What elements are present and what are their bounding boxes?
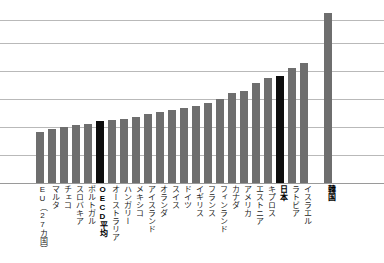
bar xyxy=(288,68,296,183)
bar xyxy=(132,117,140,183)
category-axis-labels: EU（27カ国）マルタチェコスロバキアポルトガルOECD平均オーストラリアハンガ… xyxy=(0,184,384,263)
category-label: ラトビア xyxy=(286,185,298,217)
bar-chart: EU（27カ国）マルタチェコスロバキアポルトガルOECD平均オーストラリアハンガ… xyxy=(0,0,384,263)
category-label: イギリス xyxy=(190,185,202,217)
category-label: キプロス xyxy=(262,185,274,217)
category-label: ドイツ xyxy=(178,185,190,209)
plot-area xyxy=(0,0,384,184)
bar xyxy=(120,119,128,183)
category-label: オランダ xyxy=(154,185,166,217)
category-label: 韓国 xyxy=(322,185,334,201)
category-label: スイス xyxy=(166,185,178,209)
bar xyxy=(324,13,332,183)
bar xyxy=(144,114,152,183)
bar xyxy=(48,129,56,183)
category-label: EU（27カ国） xyxy=(34,185,46,253)
bar xyxy=(240,91,248,183)
category-label: エストニア xyxy=(250,185,262,225)
category-label: マルタ xyxy=(46,185,58,209)
category-label: フィンランド xyxy=(214,185,226,233)
category-label: アイスランド xyxy=(142,185,154,233)
bar xyxy=(156,112,164,183)
bar xyxy=(300,63,308,183)
category-label: ポルトガル xyxy=(82,185,94,225)
category-label: メキシコ xyxy=(130,185,142,217)
bar xyxy=(84,124,92,183)
bar xyxy=(96,121,104,183)
category-label: OECD平均 xyxy=(94,185,106,237)
category-label: カナダ xyxy=(226,185,238,209)
bars-container xyxy=(0,0,384,184)
bar xyxy=(216,99,224,183)
bar xyxy=(204,103,212,183)
category-label: イスラエル xyxy=(298,185,310,225)
bar xyxy=(108,120,116,183)
category-label: 日本 xyxy=(274,185,286,201)
bar xyxy=(228,93,236,183)
bar xyxy=(264,78,272,183)
category-label: ハンガリー xyxy=(118,185,130,225)
bar xyxy=(276,76,284,183)
category-label: スロバキア xyxy=(70,185,82,225)
bar xyxy=(180,108,188,183)
category-label: オーストラリア xyxy=(106,185,118,241)
category-label: フランス xyxy=(202,185,214,217)
bar xyxy=(60,127,68,183)
bar xyxy=(252,83,260,183)
bar xyxy=(72,125,80,183)
bar xyxy=(36,132,44,183)
category-label: チェコ xyxy=(58,185,70,209)
bar xyxy=(168,110,176,183)
category-label: アメリカ xyxy=(238,185,250,217)
bar xyxy=(192,106,200,183)
